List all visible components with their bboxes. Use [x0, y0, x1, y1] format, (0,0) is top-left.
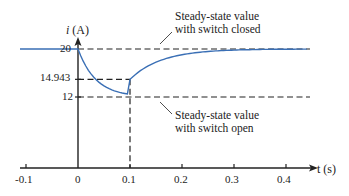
annotation-switch-closed: Steady-state value with switch closed: [175, 10, 261, 36]
x-tick-0: 0: [75, 173, 81, 185]
x-tick-0.1: 0.1: [122, 173, 136, 185]
y-tick-12: 12: [62, 90, 73, 102]
x-tick--0.1: -0.1: [15, 173, 32, 185]
leader-line-open: [160, 102, 172, 114]
leader-line-closed: [160, 32, 172, 44]
x-axis-label: t (s): [317, 162, 336, 177]
annotation-switch-open: Steady-state value with switch open: [175, 109, 259, 135]
x-tick-0.4: 0.4: [277, 173, 291, 185]
x-tick-0.2: 0.2: [174, 173, 188, 185]
y-tick-20: 20: [60, 42, 71, 54]
x-tick-0.3: 0.3: [225, 173, 239, 185]
y-tick-14943: 14.943: [40, 71, 70, 83]
y-axis-label: i (A): [66, 23, 89, 38]
